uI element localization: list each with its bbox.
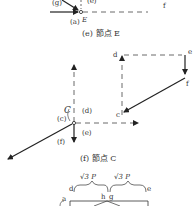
label-point-d: d	[113, 51, 118, 59]
label-point-h: h	[101, 193, 106, 201]
label-point-f-top: f	[163, 2, 167, 10]
diagonal-right	[107, 201, 120, 206]
label-point-e: e	[147, 185, 151, 193]
panel-bottom: √3 P √3 P d h g e a	[60, 173, 151, 206]
label-member-e: (e)	[82, 129, 92, 137]
caption-node-c: (f) 節点 C	[80, 153, 116, 163]
label-right-force: √3 P	[114, 173, 130, 181]
label-member-a: (a)	[70, 18, 80, 26]
member-g-arrow	[62, 0, 78, 10]
label-left-force: √3 P	[80, 173, 96, 181]
node-e-point	[79, 10, 82, 13]
panel-node-e: (g) (e) (a) E f (e) 節点 E	[50, 0, 167, 38]
label-point-a: a	[62, 195, 66, 203]
label-member-c: (c)	[57, 115, 67, 123]
truss-node-diagrams: (g) (e) (a) E f (e) 節点 E d e f c C (c) (…	[0, 0, 195, 206]
label-node-e: E	[81, 16, 87, 24]
label-member-f: (f)	[57, 138, 65, 146]
label-member-g: (g)	[52, 0, 62, 7]
diagonal-left	[94, 201, 107, 206]
node-c-point	[72, 121, 75, 124]
label-member-e: (e)	[87, 0, 97, 5]
right-brace	[110, 181, 146, 192]
label-point-e: e	[188, 48, 192, 56]
label-member-d: (d)	[82, 107, 92, 115]
label-point-g: g	[109, 193, 114, 201]
arrow-f-c	[124, 78, 185, 112]
label-point-d: d	[69, 185, 74, 193]
label-point-f: f	[186, 80, 190, 88]
force-polygon: d e f c	[113, 48, 192, 119]
left-brace	[74, 181, 108, 192]
label-node-c: C	[64, 105, 71, 115]
label-point-c: c	[116, 111, 120, 119]
caption-node-e: (e) 節点 E	[82, 28, 120, 38]
